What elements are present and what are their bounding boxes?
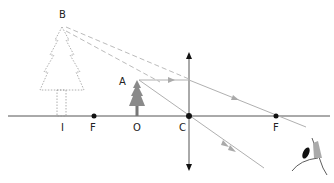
label-F-left: F — [90, 122, 96, 133]
focal-point-left — [92, 114, 97, 119]
virtual-image-tree-icon — [40, 27, 84, 116]
ray-arrow-icon — [231, 95, 239, 100]
lens-arrow-down-icon — [186, 164, 192, 171]
ray-central — [139, 80, 264, 168]
lens-arrow-up-icon — [186, 52, 192, 59]
label-B: B — [59, 9, 66, 20]
label-F-right: F — [273, 122, 279, 133]
label-O: O — [133, 122, 141, 133]
ray-arrow-icon — [168, 77, 175, 83]
center-point — [186, 113, 192, 119]
label-C: C — [179, 122, 186, 133]
ray-refracted — [189, 80, 306, 127]
focal-point-right — [274, 114, 279, 119]
eye-icon — [292, 138, 327, 175]
virtual-ray-2 — [66, 31, 160, 82]
virtual-ray-1 — [66, 27, 189, 79]
lens-diagram: B A I F O C F — [0, 0, 334, 183]
label-I: I — [61, 122, 64, 133]
object-tree-icon — [129, 80, 145, 116]
label-A: A — [119, 76, 126, 87]
